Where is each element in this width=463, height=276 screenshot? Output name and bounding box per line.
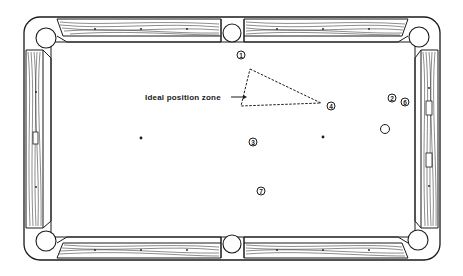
cue-ball [381, 125, 390, 134]
svg-text:7: 7 [259, 188, 263, 195]
top-right-rail [244, 19, 408, 42]
svg-text:6: 6 [403, 99, 407, 106]
left-rail [26, 50, 51, 228]
pocket-bottom-middle [223, 235, 241, 253]
pocket-bottom-left [36, 231, 56, 251]
svg-text:4: 4 [329, 103, 333, 110]
pocket-top-right [409, 27, 429, 47]
bottom-left-rail [57, 237, 221, 258]
top-left-rail [57, 19, 221, 42]
svg-text:2: 2 [390, 95, 394, 102]
bottom-right-rail [244, 237, 408, 258]
svg-text:1: 1 [239, 52, 243, 59]
pocket-top-middle [223, 24, 241, 42]
ball-6: 6 [401, 98, 409, 106]
ball-7: 7 [257, 187, 265, 195]
head-spot [140, 137, 143, 140]
ball-3: 3 [249, 138, 257, 146]
ball-4: 4 [327, 102, 335, 110]
right-rail [415, 50, 438, 228]
ball-1: 1 [237, 51, 245, 59]
svg-text:3: 3 [251, 139, 255, 146]
pocket-top-left [36, 28, 56, 48]
ball-2: 2 [388, 94, 396, 102]
pool-table-diagram: Ideal position zone 1 4 2 6 3 7 [0, 0, 463, 276]
zone-label: Ideal position zone [145, 93, 221, 102]
foot-spot [322, 136, 325, 139]
playing-surface [51, 42, 415, 237]
pocket-bottom-right [408, 230, 428, 250]
